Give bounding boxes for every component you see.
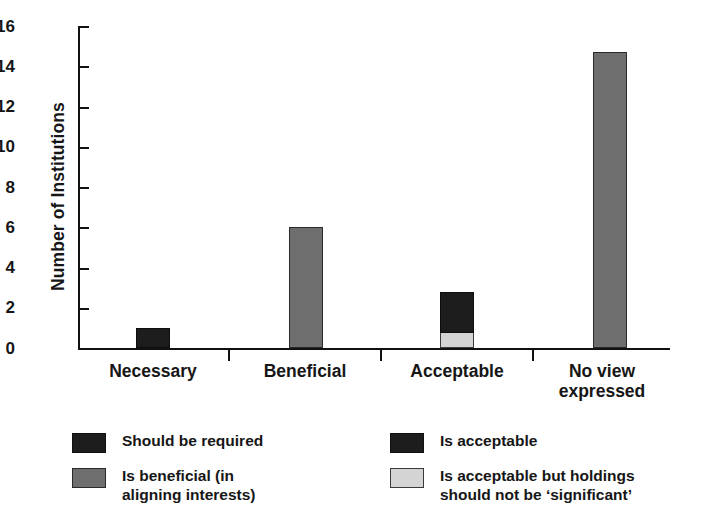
legend-swatch-is-beneficial	[72, 468, 106, 488]
legend-item-is-acceptable: Is acceptable	[390, 432, 703, 453]
x-category-label-necessary-line1: Necessary	[78, 362, 228, 382]
x-category-label-no-view-line1: No view	[534, 362, 670, 382]
y-tick-mark-4	[80, 268, 89, 270]
y-tick-label-14: 14	[0, 58, 15, 75]
x-category-label-acceptable-line1: Acceptable	[382, 362, 532, 382]
y-tick-mark-8	[80, 187, 89, 189]
plot-area: Necessary Beneficial Acceptable No view …	[78, 26, 670, 348]
bar-acceptable-is-acceptable	[440, 292, 474, 333]
y-tick-label-8: 8	[0, 179, 15, 196]
legend-item-acceptable-not-significant: Is acceptable but holdings should not be…	[390, 467, 703, 504]
y-tick-label-16: 16	[0, 18, 15, 35]
legend-item-should-be-required: Should be required	[72, 432, 392, 453]
legend-label-acceptable-not-significant: Is acceptable but holdings should not be…	[440, 467, 635, 504]
x-category-label-acceptable: Acceptable	[382, 362, 532, 382]
bar-no-view-expressed-is-beneficial	[593, 52, 627, 348]
y-tick-mark-14	[80, 66, 89, 68]
y-tick-mark-12	[80, 107, 89, 109]
y-tick-mark-2	[80, 308, 89, 310]
y-tick-label-2: 2	[0, 299, 15, 316]
y-tick-label-10: 10	[0, 138, 15, 155]
legend-label-should-be-required: Should be required	[122, 432, 263, 451]
legend-swatch-acceptable-not-significant	[390, 468, 424, 488]
y-tick-label-12: 12	[0, 98, 15, 115]
x-axis-line	[78, 348, 670, 350]
x-category-label-necessary: Necessary	[78, 362, 228, 382]
x-category-label-no-view-expressed: No view expressed	[534, 362, 670, 401]
x-category-label-beneficial: Beneficial	[230, 362, 380, 382]
legend-column-left: Should be required Is beneficial (in ali…	[72, 432, 392, 518]
category-divider-3	[532, 350, 534, 361]
bar-beneficial-is-beneficial	[289, 227, 323, 348]
legend-item-is-beneficial: Is beneficial (in aligning interests)	[72, 467, 392, 504]
y-tick-mark-6	[80, 227, 89, 229]
category-divider-1	[228, 350, 230, 361]
y-axis-title: Number of Institutions	[48, 37, 69, 357]
y-tick-label-6: 6	[0, 219, 15, 236]
y-tick-mark-16	[80, 26, 89, 28]
y-tick-label-4: 4	[0, 259, 15, 276]
legend-column-right: Is acceptable Is acceptable but holdings…	[390, 432, 703, 518]
y-tick-label-0: 0	[0, 340, 15, 357]
y-tick-mark-10	[80, 147, 89, 149]
legend-label-is-beneficial: Is beneficial (in aligning interests)	[122, 467, 256, 504]
legend-swatch-should-be-required	[72, 433, 106, 453]
category-divider-2	[380, 350, 382, 361]
bar-acceptable-holdings-not-significant	[440, 332, 474, 348]
legend-swatch-is-acceptable	[390, 433, 424, 453]
legend-label-is-acceptable: Is acceptable	[440, 432, 537, 451]
bar-chart: Number of Institutions 16 14 12 10 8 6 4…	[0, 0, 703, 531]
x-category-label-no-view-line2: expressed	[534, 382, 670, 402]
x-category-label-beneficial-line1: Beneficial	[230, 362, 380, 382]
bar-necessary-should-be-required	[136, 328, 170, 348]
